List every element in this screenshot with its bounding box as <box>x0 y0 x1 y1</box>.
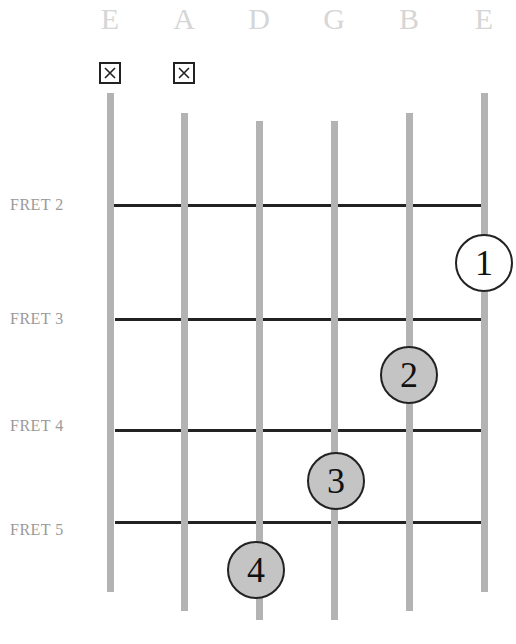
fret-label-2: FRET 2 <box>10 196 64 214</box>
string-g <box>331 121 338 620</box>
finger-3-marker: 3 <box>307 452 365 510</box>
chord-diagram: E A D G B E FRET 2 FRET 3 FRET 4 FRET 5 … <box>0 0 516 644</box>
fret-label-4: FRET 4 <box>10 417 64 435</box>
x-mark-icon <box>175 64 193 82</box>
string-label-b: B <box>389 2 429 36</box>
string-label-g: G <box>314 2 354 36</box>
finger-1-marker: 1 <box>455 234 513 292</box>
muted-x-icon <box>99 62 121 84</box>
muted-x-icon <box>173 62 195 84</box>
string-label-low-e: E <box>90 2 130 36</box>
x-mark-icon <box>101 64 119 82</box>
string-label-high-e: E <box>464 2 504 36</box>
fret-line-3 <box>115 318 481 321</box>
fret-line-5 <box>115 521 481 524</box>
finger-2-marker: 2 <box>380 346 438 404</box>
finger-4-marker: 4 <box>227 541 285 599</box>
string-low-e <box>107 93 114 592</box>
string-high-e <box>481 93 488 592</box>
string-label-d: D <box>239 2 279 36</box>
fret-line-2 <box>113 204 481 207</box>
string-label-a: A <box>164 2 204 36</box>
fret-label-5: FRET 5 <box>10 521 64 539</box>
string-a <box>181 113 188 611</box>
fret-label-3: FRET 3 <box>10 310 64 328</box>
fret-line-4 <box>115 429 481 432</box>
